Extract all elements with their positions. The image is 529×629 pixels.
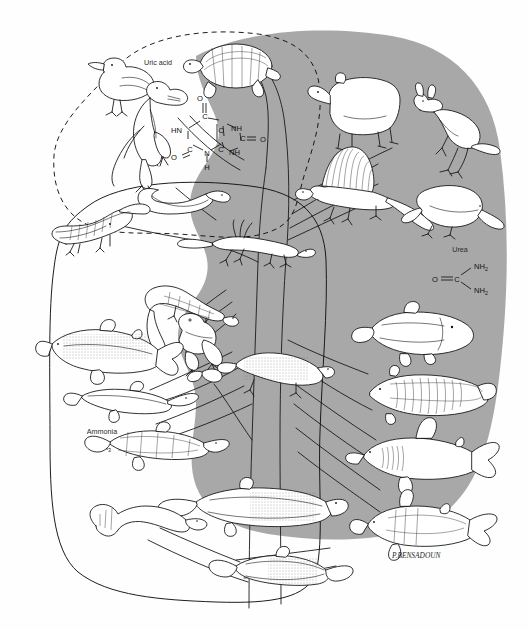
urea-atom-o: O xyxy=(432,275,438,284)
uric-acid-atom-o-top: O xyxy=(197,94,203,103)
phylogeny-diagram: .an { fill:#ffffff; stroke:#1a1a1a; stro… xyxy=(0,0,529,629)
uric-acid-atom-h-bottom: H xyxy=(204,163,209,172)
uric-acid-atom-c-lowerleft: C xyxy=(187,145,193,154)
uric-acid-atom-c-lowerright: C xyxy=(218,145,224,154)
uric-acid-atom-nh-right: NH xyxy=(231,124,242,133)
artist-signature: P.BENSADOUN xyxy=(391,551,442,560)
urea-atom-c: C xyxy=(454,275,460,284)
uric-acid-atom-o-right: O xyxy=(260,135,266,144)
urea-label: Urea xyxy=(452,245,468,254)
ammonia-label: Ammonia xyxy=(87,427,117,436)
uric-acid-atom-o-left: O xyxy=(171,153,177,162)
uric-acid-atom-n-bottom: N xyxy=(204,149,209,158)
uric-acid-atom-c-top: C xyxy=(202,112,208,121)
uric-acid-atom-nh-lower: NH xyxy=(229,148,240,157)
figure-canvas: .an { fill:#ffffff; stroke:#1a1a1a; stro… xyxy=(0,0,529,629)
uric-acid-atom-c-right: C xyxy=(218,126,224,135)
uric-acid-atom-hn-left: HN xyxy=(171,126,182,135)
uric-acid-atom-c-carbonyl: C xyxy=(240,134,246,143)
uric-acid-label: Uric acid xyxy=(144,58,172,67)
